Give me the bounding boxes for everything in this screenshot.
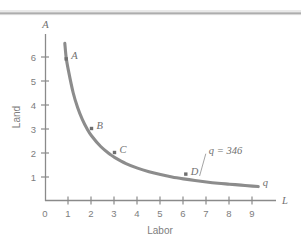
y-tick-label: 6	[31, 52, 36, 63]
y-tick-label: 1	[31, 172, 36, 183]
y-axis-title: Land	[11, 106, 22, 128]
x-tick-label: 5	[157, 208, 162, 219]
data-point-marker-a	[65, 57, 68, 60]
data-point-marker-d	[184, 172, 187, 175]
isoquant-chart: 6 5 4 3 2 1 0 1 2 3 4 5 6 7 8 9 A L Labo…	[0, 0, 301, 243]
y-tick-label: 3	[31, 124, 36, 135]
data-point-label-a: A	[70, 50, 78, 61]
x-tick-label: 0	[42, 208, 47, 219]
x-tick-label: 6	[180, 208, 185, 219]
data-point-marker-b	[90, 127, 93, 130]
x-axis-variable-label: L	[281, 195, 288, 206]
x-tick-label: 9	[249, 208, 254, 219]
y-axis-variable-label: A	[41, 19, 49, 30]
x-tick-label: 7	[203, 208, 208, 219]
x-tick-label: 4	[134, 208, 139, 219]
y-tick-label: 4	[31, 100, 36, 111]
y-tick-label: 5	[31, 76, 36, 87]
data-point-marker-c	[113, 151, 116, 154]
top-divider-rule	[0, 10, 301, 15]
x-tick-label: 2	[88, 208, 93, 219]
x-axis-title: Labor	[147, 225, 173, 236]
x-tick-label: 1	[65, 208, 70, 219]
data-point-label-b: B	[97, 120, 104, 131]
y-tick-label: 2	[31, 148, 36, 159]
x-tick-label: 3	[111, 208, 116, 219]
x-tick-label: 8	[226, 208, 231, 219]
isoquant-curve-label: q	[263, 177, 268, 188]
data-point-label-c: C	[120, 144, 128, 155]
data-point-label-d: D	[190, 166, 199, 177]
isoquant-annotation-label: q = 346	[209, 145, 243, 156]
